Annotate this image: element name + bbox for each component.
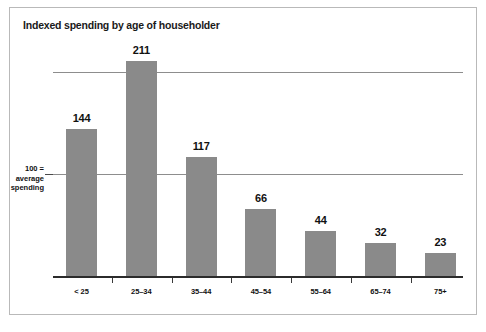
x-axis-label: 55–64 [291,287,350,296]
bar--25 [66,129,97,276]
x-axis-tick [411,278,412,283]
gridline-200 [53,72,463,73]
bar-45-54 [245,209,276,276]
y-axis-annotation-line-2: average [6,174,44,184]
bar-75- [425,253,456,276]
bar-value-label: 23 [411,236,470,248]
x-axis-label: 35–44 [172,287,231,296]
bar-value-label: 117 [172,140,231,152]
x-axis-label: 75+ [411,287,470,296]
y-axis-annotation-line-3: spending [6,183,44,193]
bar-value-label: 66 [231,192,290,204]
plot-area: 100 = average spending 14421111766443223… [0,0,486,332]
bar-value-label: 32 [351,226,410,238]
bar-value-label: 44 [291,214,350,226]
x-axis-tick [231,278,232,283]
gridline-100 [53,174,463,175]
y-axis-annotation-line-1: 100 = [6,164,44,174]
x-axis-label: 45–54 [231,287,290,296]
x-axis-tick [172,278,173,283]
x-axis-tick [351,278,352,283]
bar-value-label: 144 [52,112,111,124]
x-axis-label: < 25 [52,287,111,296]
bar-55-64 [305,231,336,276]
x-axis-label: 65–74 [351,287,410,296]
bar-65-74 [365,243,396,276]
x-axis-line [53,276,463,278]
chart-figure: Indexed spending by age of householder 1… [0,0,486,332]
bar-35-44 [186,157,217,276]
y-axis-annotation: 100 = average spending [6,164,44,193]
x-axis-tick [112,278,113,283]
y-axis-annotation-connector [45,174,53,175]
bar-value-label: 211 [112,44,171,56]
x-axis-tick [291,278,292,283]
bar-25-34 [126,61,157,276]
x-axis-label: 25–34 [112,287,171,296]
